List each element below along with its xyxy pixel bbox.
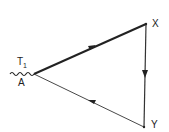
node-x bbox=[145, 23, 147, 25]
arrow-x-y-icon bbox=[142, 70, 148, 78]
wavy-source-icon bbox=[10, 73, 34, 76]
t1-subscript: 1 bbox=[23, 62, 27, 69]
node-x-label: X bbox=[152, 19, 159, 29]
t1-label: T1 bbox=[17, 57, 27, 69]
node-y-label: Y bbox=[151, 120, 158, 130]
node-a-label: A bbox=[18, 78, 25, 88]
node-y bbox=[143, 126, 145, 128]
